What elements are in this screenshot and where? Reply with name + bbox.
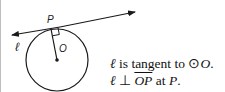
statement-line-2: ℓ ⊥ OP at P.	[110, 73, 214, 89]
label-o: O	[59, 43, 67, 54]
tangent-statement: ℓ is tangent to ⊙O. ℓ ⊥ OP at P.	[110, 56, 214, 89]
tangent-line-l	[60, 12, 135, 27]
center-point-o	[55, 58, 59, 62]
label-l: ℓ	[15, 40, 20, 54]
label-p: P	[47, 14, 54, 25]
text: at	[152, 73, 169, 88]
circle-name: O	[200, 56, 210, 71]
period: .	[177, 73, 180, 88]
period: .	[210, 56, 213, 71]
tangent-line-l-left	[12, 27, 60, 35]
point-name: P	[169, 73, 177, 88]
segment-op: OP	[134, 73, 152, 88]
perpendicular-symbol: ⊥	[116, 73, 135, 88]
circle-symbol: ⊙	[188, 56, 200, 71]
diagram-frame: P O ℓ ℓ is tangent to ⊙O. ℓ ⊥ OP at P.	[0, 0, 225, 92]
radius-op	[51, 29, 57, 60]
statement-line-1: ℓ is tangent to ⊙O.	[110, 56, 214, 72]
text: is tangent to	[116, 56, 189, 71]
